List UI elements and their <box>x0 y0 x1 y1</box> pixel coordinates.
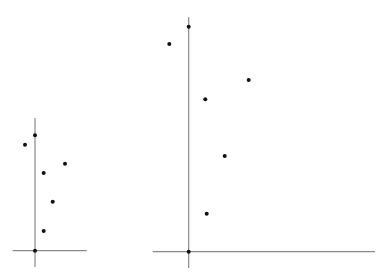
data-point <box>33 133 37 137</box>
data-point <box>51 200 55 204</box>
large-scatter-plot <box>153 17 375 268</box>
data-point <box>187 250 191 254</box>
data-point <box>33 249 37 253</box>
data-point <box>42 229 46 233</box>
data-point <box>42 171 46 175</box>
data-point <box>187 25 191 29</box>
data-point <box>167 42 171 46</box>
data-point <box>223 154 227 158</box>
data-point <box>247 78 251 82</box>
data-point <box>205 212 209 216</box>
data-point <box>23 143 27 147</box>
data-point <box>203 97 207 101</box>
data-point <box>63 162 67 166</box>
small-scatter-plot <box>13 118 87 267</box>
scatter-diagram-canvas <box>0 0 387 275</box>
